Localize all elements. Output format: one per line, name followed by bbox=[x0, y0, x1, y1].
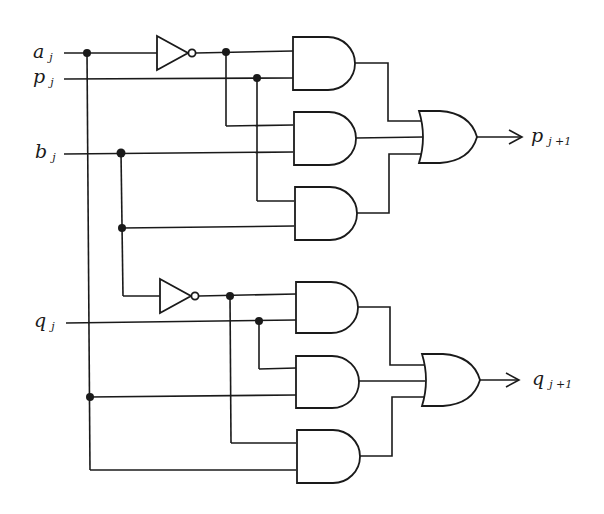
output-arrow-q bbox=[480, 373, 519, 387]
label-p-subscript: j bbox=[50, 76, 53, 89]
not-gate-b bbox=[160, 279, 199, 313]
input-wires bbox=[64, 53, 296, 323]
label-input-q: qj bbox=[34, 311, 55, 330]
and-gate-1 bbox=[293, 37, 355, 90]
b-branch-wires bbox=[121, 153, 294, 296]
and-gate-2 bbox=[294, 112, 356, 165]
label-q-subscript: j bbox=[51, 320, 54, 333]
logic-circuit-diagram bbox=[0, 0, 604, 514]
and-to-or-wires-top bbox=[355, 63, 423, 213]
label-input-b: bj bbox=[35, 142, 56, 161]
label-q-name: q bbox=[34, 309, 46, 331]
label-q-next-name: q bbox=[532, 367, 544, 389]
label-a-subscript: j bbox=[49, 51, 52, 64]
label-b-subscript: j bbox=[52, 151, 55, 164]
or-gate-q bbox=[422, 354, 480, 406]
label-output-q-next: qj +1 bbox=[532, 369, 572, 388]
or-gate-p bbox=[419, 111, 477, 163]
label-output-p-next: pj +1 bbox=[531, 126, 571, 145]
a-bus bbox=[87, 53, 296, 470]
q-branch-wires bbox=[259, 321, 296, 369]
and-gate-6 bbox=[297, 430, 360, 483]
junction-dots bbox=[83, 48, 263, 401]
output-arrow-p bbox=[477, 130, 522, 144]
not-gate-a bbox=[157, 36, 196, 70]
p-branch-wires bbox=[257, 78, 294, 201]
label-b-name: b bbox=[35, 140, 47, 162]
label-a-name: a bbox=[33, 40, 44, 62]
label-input-p: pj bbox=[33, 67, 54, 86]
wire-b bbox=[64, 152, 293, 154]
and-gate-3 bbox=[295, 187, 357, 240]
label-p-next-name: p bbox=[531, 124, 543, 146]
and-gate-4 bbox=[296, 282, 358, 333]
not-a-wires bbox=[196, 51, 293, 126]
label-p-next-subscript: j +1 bbox=[548, 135, 571, 148]
label-p-name: p bbox=[33, 65, 45, 87]
and-to-or-wires-bottom bbox=[358, 307, 425, 456]
label-q-next-subscript: j +1 bbox=[549, 378, 572, 391]
and-gate-5 bbox=[296, 356, 359, 408]
label-input-a: aj bbox=[33, 42, 53, 61]
